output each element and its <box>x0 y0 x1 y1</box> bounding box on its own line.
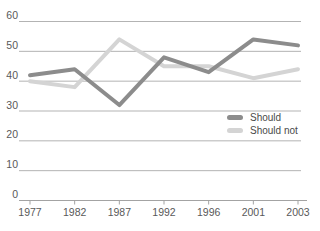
legend-label-should-not: Should not <box>250 125 298 136</box>
svg-text:50: 50 <box>6 39 18 51</box>
svg-text:1982: 1982 <box>63 206 87 218</box>
svg-text:10: 10 <box>6 158 18 170</box>
svg-text:1992: 1992 <box>152 206 176 218</box>
legend-item-should-not: Should not <box>227 125 298 136</box>
series-lines <box>30 39 298 105</box>
legend-label-should: Should <box>250 112 281 123</box>
svg-text:0: 0 <box>12 188 18 200</box>
legend-swatch-should <box>227 115 243 120</box>
svg-text:40: 40 <box>6 69 18 81</box>
gridlines <box>19 22 307 201</box>
legend-item-should: Should <box>227 112 298 123</box>
line-chart: 0102030405060 19771982198719921996200120… <box>0 0 320 231</box>
svg-text:1977: 1977 <box>18 206 42 218</box>
svg-text:60: 60 <box>6 9 18 21</box>
svg-text:30: 30 <box>6 99 18 111</box>
y-axis-labels: 0102030405060 <box>6 9 18 200</box>
x-axis-labels: 1977198219871992199620012003 <box>18 206 310 218</box>
svg-text:2003: 2003 <box>286 206 310 218</box>
svg-text:1987: 1987 <box>108 206 132 218</box>
svg-text:2001: 2001 <box>242 206 266 218</box>
legend: Should Should not <box>227 112 298 136</box>
svg-text:1996: 1996 <box>197 206 221 218</box>
svg-text:20: 20 <box>6 128 18 140</box>
legend-swatch-should-not <box>227 128 243 133</box>
axis-ticks <box>30 201 298 205</box>
